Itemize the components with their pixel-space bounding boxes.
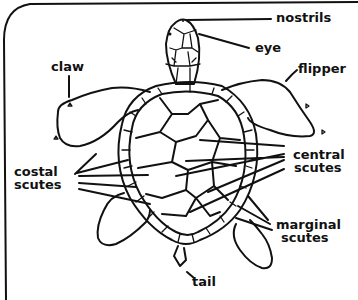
label-eye: eye	[255, 42, 281, 54]
label-claw: claw	[51, 61, 84, 73]
leader-eye	[199, 34, 249, 48]
label-costal-scutes-line2: scutes	[14, 179, 61, 191]
left-rear-flipper	[98, 193, 150, 245]
claw-right-1	[306, 104, 309, 108]
leader-marginal	[236, 196, 272, 230]
label-flipper: flipper	[298, 63, 346, 75]
label-nostrils: nostrils	[276, 12, 331, 24]
central-scutes	[136, 98, 240, 216]
right-front-flipper	[222, 80, 314, 136]
tail	[174, 246, 186, 266]
leader-flipper	[286, 70, 297, 81]
label-central-scutes-line2: scutes	[294, 162, 341, 174]
label-tail: tail	[192, 276, 216, 288]
leader-central	[176, 140, 284, 212]
head	[166, 20, 199, 85]
claw-left-2	[54, 136, 58, 139]
nostril-dot	[182, 20, 184, 22]
leader-nostrils	[186, 19, 271, 20]
head-scales	[166, 28, 200, 84]
claw-right-2	[322, 130, 325, 134]
eye-dot	[169, 33, 172, 36]
claw-left-1	[68, 103, 72, 106]
leader-costal	[75, 154, 150, 204]
label-marginal-scutes-line2: scutes	[281, 232, 328, 244]
